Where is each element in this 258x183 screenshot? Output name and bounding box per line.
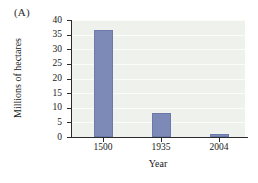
y-axis-title: Millions of hectares [12, 38, 23, 118]
x-tick-label-2004: 2004 [210, 143, 229, 153]
y-tick-10 [67, 108, 71, 109]
y-tick-label-20: 20 [53, 74, 63, 84]
x-tick-label-1935: 1935 [152, 143, 171, 153]
y-tick-0 [67, 137, 71, 138]
y-tick-label-40: 40 [53, 16, 63, 26]
y-tick-label-15: 15 [53, 89, 63, 99]
y-tick-label-5: 5 [57, 118, 62, 128]
y-tick-20 [67, 79, 71, 80]
y-tick-label-25: 25 [53, 59, 63, 69]
y-tick-35 [67, 35, 71, 36]
y-tick-label-30: 30 [53, 45, 63, 55]
y-tick-label-35: 35 [53, 30, 63, 40]
figure-panel-a: (A) 40 35 30 25 20 15 10 5 0 1500 1935 2… [0, 0, 258, 183]
x-axis-title: Year [71, 158, 245, 169]
bar-1935 [152, 113, 171, 137]
y-tick-40 [67, 20, 71, 21]
y-tick-labels: 40 35 30 25 20 15 10 5 0 [0, 0, 66, 183]
y-axis-line [71, 20, 72, 138]
y-tick-30 [67, 49, 71, 50]
y-tick-label-0: 0 [57, 133, 62, 143]
x-axis-line [71, 137, 248, 138]
x-tick-label-1500: 1500 [94, 143, 113, 153]
y-tick-label-10: 10 [53, 103, 63, 113]
y-tick-25 [67, 64, 71, 65]
bar-1500 [94, 30, 113, 137]
gridline-40 [71, 20, 245, 21]
y-tick-15 [67, 93, 71, 94]
y-tick-5 [67, 122, 71, 123]
